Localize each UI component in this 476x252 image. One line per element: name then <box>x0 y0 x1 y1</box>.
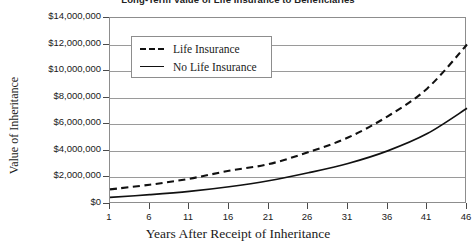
x-tick-label: 46 <box>451 211 476 222</box>
x-tick-label: 21 <box>253 211 283 222</box>
legend-label: No Life Insurance <box>173 61 257 73</box>
y-tick-label: $10,000,000 <box>48 63 101 74</box>
x-tick-label: 26 <box>292 211 322 222</box>
x-tick-mark <box>149 203 150 209</box>
x-tick-mark <box>387 203 388 209</box>
x-tick-mark <box>228 203 229 209</box>
x-tick-mark <box>109 203 110 209</box>
y-tick-label: $4,000,000 <box>53 143 101 154</box>
x-tick-mark <box>268 203 269 209</box>
solid-line-icon <box>140 62 164 72</box>
x-tick-mark <box>466 203 467 209</box>
y-tick-label: $6,000,000 <box>53 116 101 127</box>
y-tick-label: $8,000,000 <box>53 90 101 101</box>
x-tick-label: 16 <box>213 211 243 222</box>
legend-item-no-life-insurance: No Life Insurance <box>140 59 257 75</box>
x-tick-mark <box>347 203 348 209</box>
chart-title: Long-Term Value of Life Insurance to Ben… <box>0 0 476 5</box>
dashed-line-icon <box>140 44 164 54</box>
x-tick-label: 41 <box>411 211 441 222</box>
x-tick-label: 6 <box>134 211 164 222</box>
series-line <box>110 108 467 197</box>
y-tick-label: $14,000,000 <box>48 10 101 21</box>
x-tick-mark <box>188 203 189 209</box>
y-tick-label: $0 <box>90 196 101 207</box>
x-tick-label: 36 <box>372 211 402 222</box>
legend: Life Insurance No Life Insurance <box>131 36 272 78</box>
legend-label: Life Insurance <box>173 43 240 55</box>
y-tick-label: $12,000,000 <box>48 37 101 48</box>
chart-container: Long-Term Value of Life Insurance to Ben… <box>0 0 476 252</box>
x-tick-mark <box>307 203 308 209</box>
y-tick-label: $2,000,000 <box>53 169 101 180</box>
x-tick-label: 31 <box>332 211 362 222</box>
legend-item-life-insurance: Life Insurance <box>140 41 240 57</box>
x-axis-title: Years After Receipt of Inheritance <box>0 226 476 242</box>
x-tick-label: 1 <box>94 211 124 222</box>
x-tick-label: 11 <box>173 211 203 222</box>
x-tick-mark <box>426 203 427 209</box>
y-axis-title: Value of Inheritance <box>7 56 22 196</box>
